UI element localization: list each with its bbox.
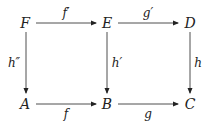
node-B: B <box>101 96 112 112</box>
node-E: E <box>101 15 112 31</box>
node-A: A <box>18 96 30 112</box>
label-f-prime: f′ <box>61 6 69 20</box>
label-h: h <box>194 56 202 70</box>
node-C: C <box>185 96 196 112</box>
label-f: f <box>63 107 71 121</box>
diagram-canvas: F E D A B C f′ g′ h″ h′ h f g <box>0 0 206 127</box>
label-g: g <box>144 107 152 121</box>
label-g-prime: g′ <box>143 6 154 20</box>
node-D: D <box>183 15 195 31</box>
label-h-double-prime: h″ <box>8 56 21 70</box>
commutative-diagram: F E D A B C f′ g′ h″ h′ h f g <box>0 0 206 127</box>
label-h-prime: h′ <box>112 56 123 70</box>
node-F: F <box>19 15 31 31</box>
